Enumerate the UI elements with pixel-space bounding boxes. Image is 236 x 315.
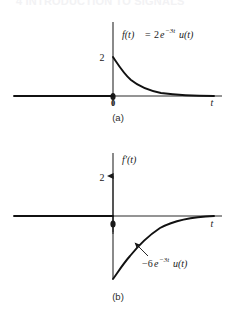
panel-b-impulse-label: 2 — [100, 172, 105, 183]
panel-a-origin-label: 0 — [111, 98, 115, 108]
panel-a-label-lhs: f(t) — [122, 29, 135, 41]
panel-b-curve-annotation: −6 e −3t u(t) — [142, 256, 188, 270]
panel-a-caption: (a) — [0, 112, 236, 123]
running-header-text: 4 INTRODUCTION TO SIGNALS — [16, 0, 185, 7]
panel-a-label-equals: = — [145, 29, 151, 40]
figure-page: 4 INTRODUCTION TO SIGNALS 2 0 t f(t) = — [0, 0, 236, 315]
panel-b-caption: (b) — [0, 291, 236, 302]
panel-a-label-step: u(t) — [179, 29, 194, 41]
panel-a-curve-exponential — [113, 57, 214, 96]
panel-b-annotation-step: u(t) — [173, 258, 188, 270]
panel-b-annotation-leader — [135, 243, 148, 256]
panel-b-plot: 2 0 t f′(t) −6 e −3t u(t) — [0, 146, 236, 315]
panel-a-x-axis-label: t — [211, 97, 214, 108]
panel-a-label-coefficient: 2 — [154, 29, 159, 40]
panel-b-function-label: f′(t) — [122, 154, 137, 166]
panel-a-label-exponent: −3t — [165, 27, 176, 35]
panel-a-y-tick-label: 2 — [100, 52, 105, 63]
running-header: 4 INTRODUCTION TO SIGNALS — [0, 0, 236, 11]
panel-b-curve-exponential — [113, 216, 214, 279]
panel-b-annotation-exponent: −3t — [159, 256, 170, 264]
panel-b-annotation-coefficient: −6 — [142, 258, 153, 269]
figure-panel-b: 2 0 t f′(t) −6 e −3t u(t) — [0, 146, 236, 315]
panel-b-x-axis-label: t — [211, 218, 214, 229]
panel-a-function-label: f(t) = 2 e −3t u(t) — [122, 27, 194, 41]
